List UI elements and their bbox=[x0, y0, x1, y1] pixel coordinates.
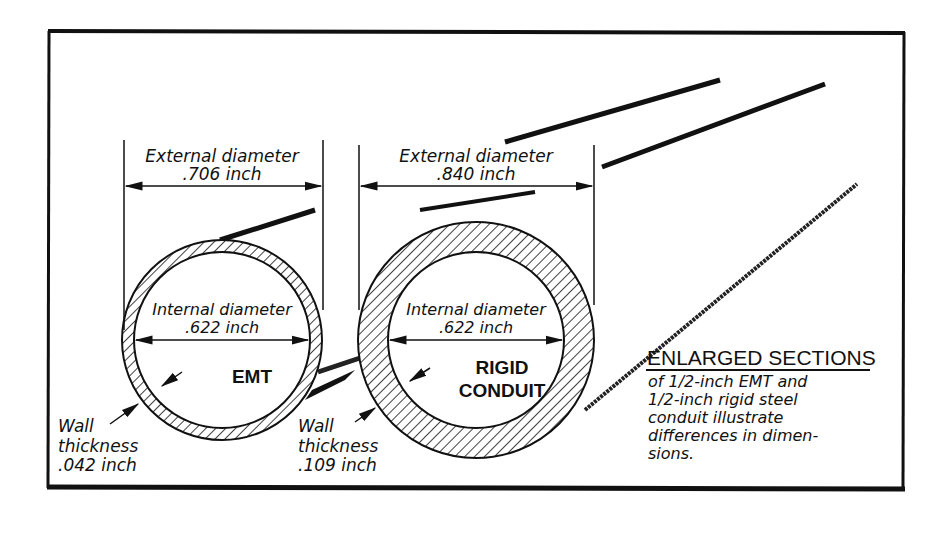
caption-title: ENLARGED SECTIONS bbox=[647, 346, 876, 369]
rigid-label-line2: CONDUIT bbox=[459, 380, 546, 401]
emt-internal-value: .622 inch bbox=[185, 318, 259, 337]
rigid-wall-label-1: Wall bbox=[298, 416, 334, 436]
conduit-comparison-diagram: External diameter .706 inch External dia… bbox=[0, 0, 948, 542]
emt-external-value: .706 inch bbox=[183, 164, 262, 184]
rigid-external-label: External diameter bbox=[399, 146, 553, 166]
emt-label: EMT bbox=[232, 366, 273, 387]
rigid-external-value: .840 inch bbox=[437, 164, 516, 184]
caption-line-3: conduit illustrate bbox=[648, 408, 784, 427]
caption-line-1: of 1/2-inch EMT and bbox=[648, 372, 808, 391]
caption-line-2: 1/2-inch rigid steel bbox=[648, 390, 798, 409]
emt-wall-label-2: thickness bbox=[58, 436, 138, 456]
rigid-wall-label-2: thickness bbox=[298, 436, 378, 456]
rigid-internal-value: .622 inch bbox=[439, 318, 513, 337]
emt-internal-label: Internal diameter bbox=[152, 300, 293, 319]
caption-line-5: sions. bbox=[648, 444, 694, 463]
emt-wall-value: .042 inch bbox=[58, 455, 137, 475]
rigid-internal-label: Internal diameter bbox=[406, 300, 547, 319]
rigid-label-line1: RIGID bbox=[476, 357, 529, 378]
rigid-wall-value: .109 inch bbox=[298, 455, 377, 475]
caption-line-4: differences in dimen- bbox=[648, 426, 818, 445]
caption: ENLARGED SECTIONS of 1/2-inch EMT and 1/… bbox=[646, 346, 876, 463]
emt-wall-label-1: Wall bbox=[58, 416, 94, 436]
emt-external-label: External diameter bbox=[145, 146, 299, 166]
